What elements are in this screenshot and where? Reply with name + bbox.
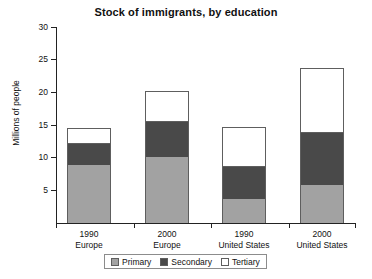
bar-segment-secondary [145, 122, 189, 157]
chart-figure: Stock of immigrants, by education Millio… [0, 0, 372, 279]
y-tick-label-20: 20 [24, 87, 48, 97]
legend-label-secondary: Secondary [171, 257, 212, 267]
y-tick-label-25: 25 [24, 54, 48, 64]
bar-segment-primary [300, 185, 344, 223]
legend-item-secondary[interactable]: Secondary [160, 257, 212, 267]
x-tick-mark-3 [289, 223, 290, 228]
legend-swatch-tertiary-icon [221, 258, 229, 266]
y-tick-label-30: 30 [24, 22, 48, 32]
x-label-year: 2000 [158, 229, 177, 239]
bar-group-1990-united-states[interactable] [222, 127, 266, 223]
x-tick-mark-2 [211, 223, 212, 228]
bar-segment-tertiary [222, 127, 266, 167]
bar-segment-secondary [300, 133, 344, 185]
bar-group-2000-united-states[interactable] [300, 68, 344, 223]
bar-segment-tertiary [300, 68, 344, 133]
bar-segment-secondary [67, 144, 111, 165]
chart-title: Stock of immigrants, by education [0, 6, 372, 18]
legend-label-tertiary: Tertiary [232, 257, 260, 267]
bar-group-1990-europe[interactable] [67, 128, 111, 223]
bar-segment-primary [145, 157, 189, 223]
y-tick-label-10: 10 [24, 152, 48, 162]
bar-group-2000-europe[interactable] [145, 91, 189, 223]
bar-segment-primary [222, 199, 266, 223]
bar-segment-secondary [222, 167, 266, 199]
chart-legend: Primary Secondary Tertiary [104, 254, 267, 269]
legend-swatch-secondary-icon [160, 258, 168, 266]
x-tick-mark-end [355, 223, 356, 228]
x-label-year: 2000 [313, 229, 332, 239]
bar-segment-tertiary [145, 91, 189, 122]
y-axis-title: Millions of people [11, 63, 21, 163]
legend-swatch-primary-icon [111, 258, 119, 266]
x-axis-line [56, 223, 355, 224]
legend-item-primary[interactable]: Primary [111, 257, 151, 267]
bar-segment-primary [67, 165, 111, 223]
y-tick-label-5: 5 [24, 185, 48, 195]
x-label-year: 1990 [80, 229, 99, 239]
legend-item-tertiary[interactable]: Tertiary [221, 257, 260, 267]
x-label-year: 1990 [235, 229, 254, 239]
x-label-region: United States [274, 240, 370, 251]
y-tick-label-15: 15 [24, 120, 48, 130]
legend-label-primary: Primary [122, 257, 151, 267]
x-tick-mark-start [56, 223, 57, 228]
x-axis-label-2000-united-states: 2000 United States [274, 229, 370, 251]
bar-segment-tertiary [67, 128, 111, 144]
x-tick-mark-1 [134, 223, 135, 228]
plot-area [56, 27, 355, 223]
